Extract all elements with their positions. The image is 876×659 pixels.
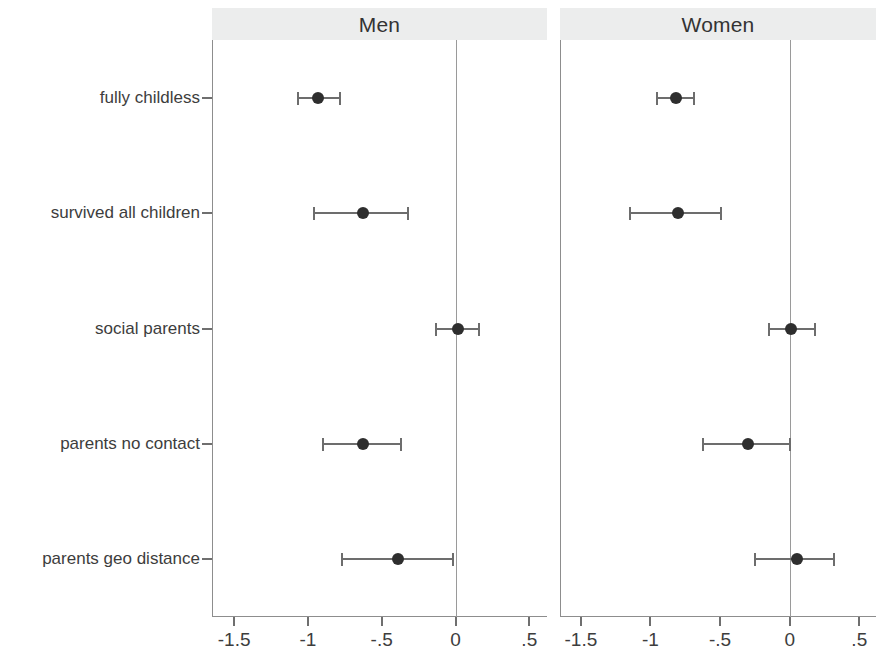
point-estimate-marker [670, 92, 682, 104]
x-axis-tick-men-0 [233, 617, 235, 626]
confidence-interval-cap-low [656, 92, 658, 105]
point-estimate-marker [392, 553, 404, 565]
x-axis-tick-label-men-3: 0 [450, 629, 461, 651]
panel-header-men-label: Men [359, 14, 400, 35]
y-axis-label-survived-all-children: survived all children [51, 203, 200, 223]
y-axis-label-parents-geo-distance: parents geo distance [42, 549, 200, 569]
point-estimate-marker [742, 438, 754, 450]
x-axis-tick-women-0 [580, 617, 582, 626]
point-estimate-marker [791, 553, 803, 565]
y-axis-label-social-parents: social parents [95, 319, 200, 339]
x-axis-tick-label-women-2: -.5 [709, 629, 731, 651]
panel-header-men: Men [212, 8, 547, 40]
x-axis-tick-men-3 [455, 617, 457, 626]
y-axis-tick-3 [202, 443, 212, 445]
x-axis-tick-women-2 [719, 617, 721, 626]
y-axis-tick-0 [202, 97, 212, 99]
y-axis-tick-1 [202, 212, 212, 214]
forest-plot-figure: Men Women fully childlesssurvived all ch… [0, 0, 876, 659]
x-axis-tick-label-women-1: -1 [642, 629, 659, 651]
x-axis-tick-label-women-3: 0 [784, 629, 795, 651]
x-axis-tick-label-men-4: .5 [521, 629, 537, 651]
confidence-interval-cap-high [833, 553, 835, 566]
plot-area-women [560, 40, 876, 617]
x-axis-women: -1.5-1-.50.5 [560, 617, 876, 659]
confidence-interval-cap-high [339, 92, 341, 105]
point-estimate-marker [357, 438, 369, 450]
confidence-interval-cap-low [629, 207, 631, 220]
confidence-interval-cap-low [341, 553, 343, 566]
axis-line-left-women [560, 40, 561, 617]
x-axis-tick-label-men-1: -1 [299, 629, 316, 651]
confidence-interval-cap-high [720, 207, 722, 220]
panel-header-women: Women [560, 8, 876, 40]
x-axis-tick-women-3 [789, 617, 791, 626]
confidence-interval-cap-high [478, 323, 480, 336]
y-axis-tick-2 [202, 328, 212, 330]
x-axis-tick-label-women-4: .5 [851, 629, 867, 651]
point-estimate-marker [357, 207, 369, 219]
confidence-interval-cap-low [702, 438, 704, 451]
confidence-interval-cap-low [297, 92, 299, 105]
plot-area-men [212, 40, 547, 617]
x-axis-tick-women-4 [858, 617, 860, 626]
confidence-interval-cap-high [693, 92, 695, 105]
panel-header-women-label: Women [682, 14, 755, 35]
point-estimate-marker [785, 323, 797, 335]
y-axis-tick-4 [202, 558, 212, 560]
confidence-interval-cap-low [313, 207, 315, 220]
x-axis-tick-label-men-2: -.5 [371, 629, 393, 651]
x-axis-men: -1.5-1-.50.5 [212, 617, 547, 659]
confidence-interval-cap-high [452, 553, 454, 566]
confidence-interval-cap-high [407, 207, 409, 220]
axis-line-left-men [212, 40, 213, 617]
confidence-interval-cap-low [754, 553, 756, 566]
point-estimate-marker [672, 207, 684, 219]
confidence-interval-cap-high [789, 438, 791, 451]
confidence-interval-cap-high [814, 323, 816, 336]
y-axis-category-labels: fully childlesssurvived all childrensoci… [0, 40, 212, 617]
confidence-interval-cap-high [400, 438, 402, 451]
confidence-interval-cap-low [322, 438, 324, 451]
x-axis-tick-label-women-0: -1.5 [565, 629, 598, 651]
confidence-interval-cap-low [768, 323, 770, 336]
x-axis-tick-men-1 [307, 617, 309, 626]
y-axis-label-fully-childless: fully childless [100, 88, 200, 108]
x-axis-tick-men-4 [528, 617, 530, 626]
x-axis-tick-label-men-0: -1.5 [218, 629, 251, 651]
point-estimate-marker [452, 323, 464, 335]
point-estimate-marker [312, 92, 324, 104]
x-axis-tick-men-2 [381, 617, 383, 626]
y-axis-label-parents-no-contact: parents no contact [60, 434, 200, 454]
x-axis-tick-women-1 [649, 617, 651, 626]
confidence-interval-cap-low [435, 323, 437, 336]
